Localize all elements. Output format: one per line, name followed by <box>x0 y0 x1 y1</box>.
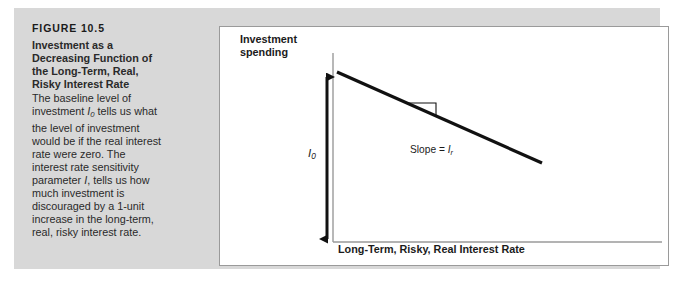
figure-body-text: The baseline level of investment I0 tell… <box>32 92 162 239</box>
x-axis-label: Long-Term, Risky, Real Interest Rate <box>338 243 525 255</box>
y-axis-label-line1: Investment <box>240 33 297 46</box>
y-axis-label-line2: spending <box>240 46 297 59</box>
y-axis-label: Investment spending <box>240 33 297 59</box>
slope-label-subscript: r <box>451 148 453 157</box>
intercept-label: I0 <box>308 147 316 161</box>
chart-panel: Investment spending Long-Term, Risky, Re… <box>219 26 669 266</box>
figure-title: Investment as a Decreasing Function of t… <box>32 39 162 91</box>
slope-label: Slope = Ir <box>410 144 453 157</box>
figure-number: FIGURE 10.5 <box>32 22 162 34</box>
figure-panel: FIGURE 10.5 Investment as a Decreasing F… <box>14 8 660 269</box>
slope-label-prefix: Slope = <box>410 144 448 155</box>
intercept-label-subscript: 0 <box>311 152 316 161</box>
figure-caption: FIGURE 10.5 Investment as a Decreasing F… <box>32 22 162 240</box>
